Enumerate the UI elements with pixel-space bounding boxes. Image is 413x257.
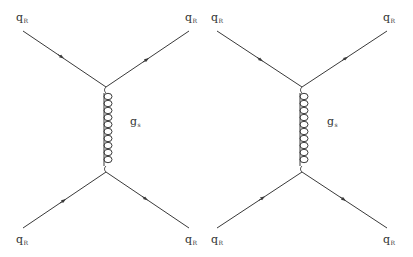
diagram-right [217, 31, 387, 228]
label-quark-top-left: qR [211, 12, 223, 24]
gluon-propagator [104, 87, 112, 172]
label-quark-bottom-left: qR [211, 234, 223, 246]
label-gluon: gs [327, 116, 338, 128]
gluon-propagator [300, 87, 308, 172]
label-quark-top-left: qR [16, 12, 28, 24]
feynman-diagrams [0, 0, 413, 257]
label-quark-bottom-right: qR [185, 234, 197, 246]
quark-line-top-left [217, 31, 302, 87]
label-gluon: gs [130, 116, 141, 128]
quark-line-bottom-left [23, 172, 106, 228]
label-quark-top-right: qR [383, 12, 395, 24]
quark-line-bottom-right [106, 172, 189, 228]
gluon-loops [104, 93, 112, 162]
label-quark-bottom-right: qR [383, 234, 395, 246]
quark-line-top-right [106, 31, 189, 87]
quark-line-bottom-right [302, 172, 387, 228]
label-quark-bottom-left: qR [16, 234, 28, 246]
quark-line-bottom-left [217, 172, 302, 228]
diagram-left [23, 31, 189, 228]
label-quark-top-right: qR [185, 12, 197, 24]
quark-line-top-left [23, 31, 106, 87]
gluon-loops [300, 93, 308, 162]
quark-line-top-right [302, 31, 387, 87]
